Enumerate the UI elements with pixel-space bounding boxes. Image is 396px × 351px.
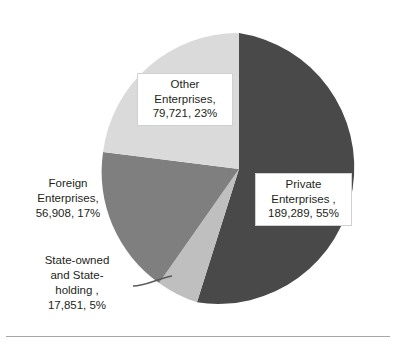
figure-divider-rule [6,336,390,337]
pie-label-foreign-enterprises: Foreign Enterprises, 56,908, 17% [16,176,120,221]
pie-label-private-enterprises: Private Enterprises , 189,289, 55% [255,173,352,226]
pie-label-other-enterprises: Other Enterprises, 79,721, 23% [137,73,233,126]
pie-chart-figure: Other Enterprises, 79,721, 23% Private E… [0,0,396,351]
pie-label-state-owned-and-state-holding: State-owned and State- holding , 17,851,… [22,253,132,313]
